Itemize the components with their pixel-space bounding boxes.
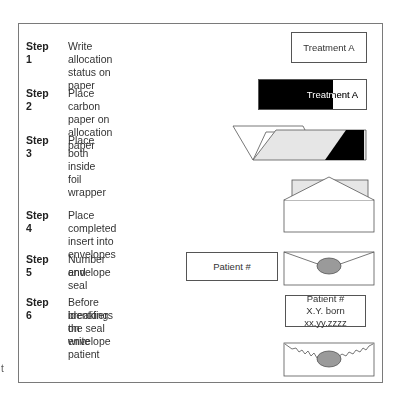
- foil-wrapper-icon: [233, 126, 366, 160]
- envelope-with-insert-icon: [284, 177, 374, 232]
- sealed-envelope-icon: [284, 252, 374, 285]
- broken-seal-envelope-icon: [284, 343, 374, 376]
- illustrations: [0, 0, 401, 399]
